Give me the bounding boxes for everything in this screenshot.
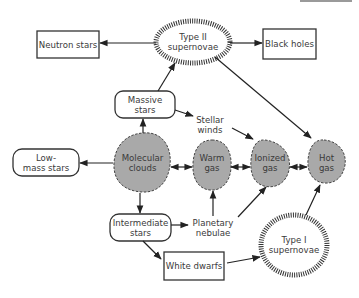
low-mass-stars-label: Low- mass stars — [13, 149, 79, 176]
ionized-gas-label: Ionized gas — [251, 150, 289, 176]
planetary-nebulae-label: Planetary nebulae — [188, 215, 238, 241]
arrow-winds-to-ionized — [232, 128, 253, 139]
neutron-stars-label: Neutron stars — [37, 31, 99, 58]
massive-stars-label: Massive stars — [115, 91, 175, 118]
arrow-type1-to-hotgas — [306, 185, 320, 215]
white-dwarfs-label: White dwarfs — [164, 252, 224, 280]
type1-supernovae-label: Type I supernovae — [264, 232, 324, 258]
arrow-whitedwarfs-to-type1 — [227, 257, 260, 263]
stellar-winds-label: Stellar winds — [190, 113, 230, 137]
intermediate-stars-label: Intermediate stars — [110, 214, 171, 241]
interstellar-cycle-diagram: Neutron stars Type II supernovae Black h… — [0, 0, 359, 298]
hot-gas-label: Hot gas — [308, 150, 345, 176]
arrow-nebulae-to-ionized — [238, 187, 266, 217]
warm-gas-label: Warm gas — [193, 150, 231, 176]
arrow-massive-to-type2 — [158, 63, 175, 91]
type2-supernovae-label: Type II supernovae — [160, 28, 226, 56]
molecular-clouds-label: Molecular clouds — [114, 150, 171, 176]
arrow-intermediate-to-whitedwarfs — [143, 241, 161, 259]
black-holes-label: Black holes — [263, 29, 316, 59]
